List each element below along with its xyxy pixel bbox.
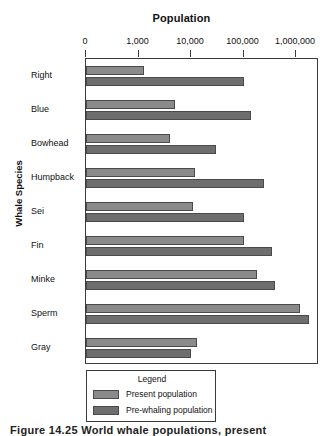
legend-swatch-present-icon: [93, 390, 119, 399]
bar-blue-prewhaling: [86, 111, 251, 120]
chart-title-text: Population: [153, 12, 211, 24]
x-axis-tick-label: 1,000,000: [275, 36, 315, 46]
bar-fin-prewhaling: [86, 247, 272, 256]
bar-sei-present: [86, 202, 193, 211]
bar-bowhead-prewhaling: [86, 145, 216, 154]
y-axis-label-minke: Minke: [0, 274, 79, 284]
x-axis-tick: [243, 50, 244, 57]
bar-minke-prewhaling: [86, 281, 275, 290]
x-axis-tick-label: 1,000: [126, 36, 149, 46]
bar-blue-present: [86, 100, 175, 109]
y-axis-label-gray: Gray: [0, 342, 79, 352]
x-axis-tick-label: 100,000: [226, 36, 259, 46]
bar-gray-present: [86, 338, 197, 347]
legend-label-prewhaling: Pre-whaling population: [126, 405, 212, 415]
figure-caption: Figure 14.25 World whale populations, pr…: [10, 424, 330, 436]
y-axis-label-fin: Fin: [0, 240, 79, 250]
bar-sperm-prewhaling: [86, 315, 309, 324]
legend-title: Legend: [87, 374, 217, 384]
x-axis-tick: [85, 50, 86, 57]
y-axis-label-blue: Blue: [0, 104, 79, 114]
bar-gray-prewhaling: [86, 349, 191, 358]
y-axis-label-sperm: Sperm: [0, 308, 79, 318]
x-axis-tick: [295, 50, 296, 57]
x-axis: 01,00010,000100,0001,000,000: [85, 38, 318, 58]
y-axis-title: Whale Species: [13, 154, 24, 234]
bar-humpback-prewhaling: [86, 179, 264, 188]
legend-label-present: Present population: [126, 389, 197, 399]
bar-right-prewhaling: [86, 77, 244, 86]
bar-bowhead-present: [86, 134, 170, 143]
x-axis-tick: [190, 50, 191, 57]
bar-sei-prewhaling: [86, 213, 244, 222]
y-axis-label-right: Right: [0, 70, 79, 80]
bar-humpback-present: [86, 168, 195, 177]
legend: Legend Present population Pre-whaling po…: [86, 370, 216, 422]
bar-fin-present: [86, 236, 244, 245]
legend-item-prewhaling: Pre-whaling population: [93, 404, 212, 416]
chart-title: Population: [0, 12, 331, 24]
x-axis-tick-label: 10,000: [176, 36, 204, 46]
bar-minke-present: [86, 270, 257, 279]
bar-right-present: [86, 66, 144, 75]
x-axis-tick: [138, 50, 139, 57]
legend-swatch-prewhaling-icon: [93, 406, 119, 415]
plot-area: [85, 58, 318, 364]
bar-sperm-present: [86, 304, 300, 313]
x-axis-tick-label: 0: [82, 36, 87, 46]
legend-item-present: Present population: [93, 388, 197, 400]
y-axis-label-bowhead: Bowhead: [0, 138, 79, 148]
